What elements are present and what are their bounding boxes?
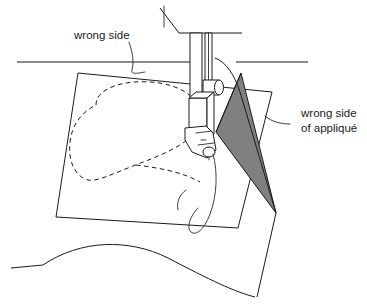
presser-foot	[185, 92, 216, 158]
illustration-canvas: wrong side wrong side of appliqué	[0, 0, 367, 305]
machine-arm-edge	[160, 6, 242, 33]
label-wrong-side: wrong side	[73, 29, 130, 41]
sewing-diagram: wrong side wrong side of appliqué	[0, 0, 367, 305]
leader-line-applique	[265, 116, 290, 124]
label-applique-line2: of appliqué	[301, 122, 357, 134]
leader-line-wrong-side	[129, 42, 145, 73]
label-applique-line1: wrong side	[300, 107, 357, 119]
